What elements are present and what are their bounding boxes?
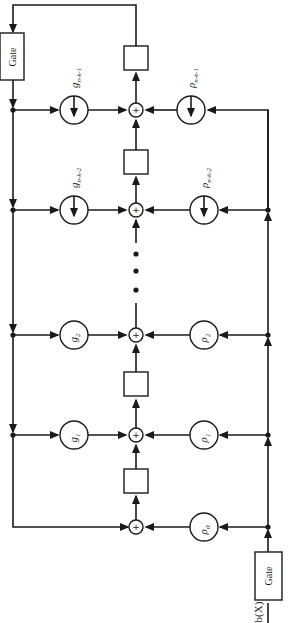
row-1: g1 + ρ1 (13, 421, 268, 449)
ellipsis-dot (133, 251, 138, 256)
svg-text:+: + (132, 522, 140, 532)
svg-text:+: + (132, 105, 140, 115)
ellipsis-dot (133, 287, 138, 292)
svg-text:+: + (132, 430, 140, 440)
ellipsis-dot (133, 268, 138, 273)
shift-register (124, 46, 148, 70)
rho-label: ρn-k-1 (185, 68, 200, 89)
shift-register (124, 469, 148, 493)
gate-top: Gate (0, 33, 24, 80)
g-label: gn-k-2 (68, 167, 83, 188)
shift-register (124, 372, 148, 396)
row-0: + ρ0 (129, 513, 268, 541)
gate-top-label: Gate (7, 47, 18, 66)
rho-label: ρn-k-2 (198, 167, 213, 189)
encoder-circuit-diagram: Gate Gate b(X) gn-k-1 (0, 0, 293, 623)
svg-text:+: + (132, 205, 140, 215)
svg-text:+: + (132, 330, 140, 340)
row-2: g2 + ρ2 (13, 321, 268, 349)
feedback-wire (13, 5, 136, 47)
input-label: b(X) (252, 601, 265, 622)
shift-register (124, 150, 148, 174)
gate-bottom-label: Gate (263, 566, 274, 585)
g-label: gn-k-1 (68, 68, 83, 88)
row-n-k-1: gn-k-1 + ρn-k-1 (13, 68, 268, 210)
row-n-k-2: gn-k-2 + ρn-k-2 (13, 167, 268, 224)
gate-bottom: Gate (255, 552, 282, 600)
